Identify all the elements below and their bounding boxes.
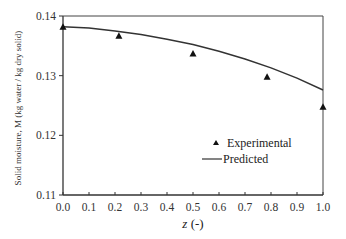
x-tick-label: 1.0 bbox=[316, 201, 331, 213]
chart: 0.110.120.130.14 0.00.10.20.30.40.50.60.… bbox=[0, 0, 346, 239]
x-tick-label: 0.9 bbox=[290, 201, 305, 213]
legend: Experimental Predicted bbox=[202, 136, 292, 166]
x-tick-label: 0.0 bbox=[56, 201, 71, 213]
legend-item-experimental: Experimental bbox=[213, 136, 292, 150]
legend-label-experimental: Experimental bbox=[227, 136, 292, 150]
x-tick-label: 0.2 bbox=[108, 201, 123, 213]
y-axis-title: Solid moisture, M (kg water / kg dry sol… bbox=[13, 31, 23, 186]
x-tick-label: 0.8 bbox=[264, 201, 279, 213]
x-tick-label: 0.5 bbox=[186, 201, 201, 213]
triangle-marker-icon bbox=[264, 73, 271, 80]
plot-frame bbox=[63, 16, 323, 195]
x-tick-label: 0.4 bbox=[160, 201, 175, 213]
predicted-curve bbox=[63, 27, 323, 90]
y-axis-ticks: 0.110.120.130.14 bbox=[36, 10, 63, 201]
triangle-marker-icon bbox=[190, 50, 197, 57]
x-tick-label: 0.1 bbox=[82, 201, 97, 213]
x-tick-label: 0.7 bbox=[238, 201, 253, 213]
predicted-line bbox=[63, 27, 323, 90]
y-tick-label: 0.12 bbox=[36, 129, 56, 141]
y-tick-label: 0.11 bbox=[36, 189, 56, 201]
y-tick-label: 0.14 bbox=[36, 10, 56, 22]
y-tick-label: 0.13 bbox=[36, 70, 56, 82]
x-tick-label: 0.3 bbox=[134, 201, 149, 213]
experimental-points bbox=[60, 23, 327, 109]
x-axis-title-unit: (-) bbox=[187, 216, 203, 231]
triangle-marker-icon bbox=[320, 103, 327, 110]
x-tick-label: 0.6 bbox=[212, 201, 227, 213]
legend-item-predicted: Predicted bbox=[202, 152, 268, 166]
legend-label-predicted: Predicted bbox=[223, 152, 268, 166]
x-axis-title: z (-) bbox=[181, 216, 203, 231]
triangle-marker-icon bbox=[213, 140, 219, 145]
triangle-marker-icon bbox=[115, 32, 122, 39]
